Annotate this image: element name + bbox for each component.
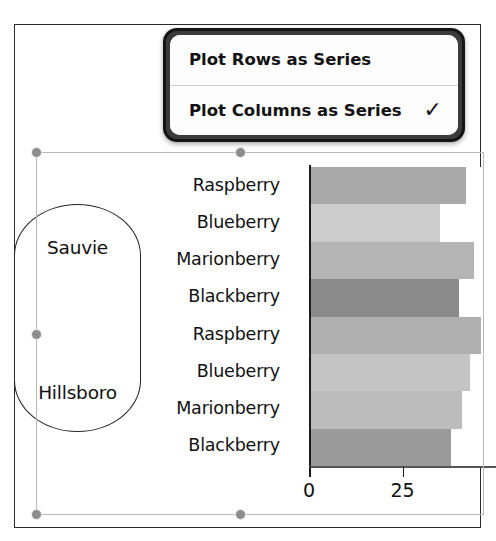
selection-handle-top-left[interactable] [31,147,42,158]
plot-series-orientation-menu[interactable]: Plot Rows as Series ✓ Plot Columns as Se… [163,28,465,142]
selection-handle-middle-left[interactable] [31,329,42,340]
menu-panel: Plot Rows as Series ✓ Plot Columns as Se… [170,35,458,135]
selection-handle-top-middle[interactable] [235,147,246,158]
menu-item-label: Plot Columns as Series [189,101,414,120]
chart-selection-box[interactable] [36,152,484,515]
menu-item-plot-columns-as-series[interactable]: Plot Columns as Series ✓ [170,85,458,136]
selection-handle-bottom-left[interactable] [31,509,42,520]
selection-handle-bottom-middle[interactable] [235,509,246,520]
checkmark-icon: ✓ [414,99,442,121]
menu-item-plot-rows-as-series[interactable]: Plot Rows as Series ✓ [170,35,458,85]
menu-item-label: Plot Rows as Series [189,50,414,69]
